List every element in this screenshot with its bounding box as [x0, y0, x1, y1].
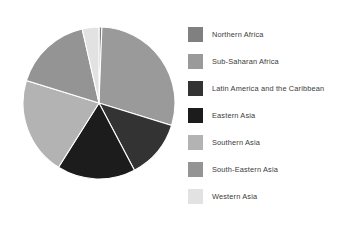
pie-chart-svg [22, 24, 176, 184]
legend-swatch [188, 189, 203, 204]
pie-chart-screenshot: Northern AfricaSub-Saharan AfricaLatin A… [0, 0, 343, 229]
legend-item[interactable]: Eastern Asia [188, 108, 340, 123]
legend-item[interactable]: Sub-Saharan Africa [188, 54, 340, 69]
legend-item[interactable]: Latin America and the Caribbean [188, 81, 340, 96]
legend-item-label: South-Eastern Asia [212, 166, 278, 173]
legend-item-label: Western Asia [212, 193, 257, 200]
legend-item[interactable]: Western Asia [188, 189, 340, 204]
legend-swatch [188, 135, 203, 150]
chart-legend: Northern AfricaSub-Saharan AfricaLatin A… [188, 27, 340, 216]
legend-item[interactable]: Northern Africa [188, 27, 340, 42]
legend-item-label: Southern Asia [212, 139, 260, 146]
legend-swatch [188, 54, 203, 69]
legend-swatch [188, 162, 203, 177]
legend-swatch [188, 27, 203, 42]
legend-swatch [188, 108, 203, 123]
legend-swatch [188, 81, 203, 96]
pie-slice-group [23, 27, 175, 179]
legend-item-label: Sub-Saharan Africa [212, 58, 279, 65]
legend-item-label: Eastern Asia [212, 112, 255, 119]
pie-chart-area [22, 24, 176, 184]
legend-item-label: Northern Africa [212, 31, 264, 38]
legend-item[interactable]: South-Eastern Asia [188, 162, 340, 177]
legend-item-label: Latin America and the Caribbean [212, 85, 324, 92]
legend-item[interactable]: Southern Asia [188, 135, 340, 150]
